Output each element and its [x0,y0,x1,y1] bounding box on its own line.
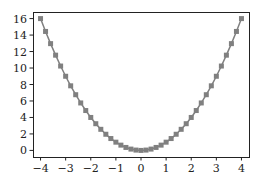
y-tick-label: 4 [20,111,27,124]
y-tick-label: 8 [20,79,27,92]
y-tick-label: 16 [13,13,27,26]
square-marker [164,140,169,145]
x-tick-label: −1 [108,162,124,175]
series-layer [38,16,244,153]
x-tick-label: 3 [213,162,220,175]
square-marker [214,74,219,79]
square-marker [169,136,174,141]
y-tick-label: 14 [13,29,27,42]
square-marker [133,148,138,153]
square-marker [199,100,204,105]
square-marker [194,108,199,113]
line-chart: −4−3−2−101234 0246810121416 [0,0,263,181]
square-marker [179,127,184,132]
square-marker [128,147,133,152]
square-marker [159,143,164,148]
square-marker [118,143,123,148]
square-marker [239,16,244,21]
square-marker [149,147,154,152]
square-marker [154,145,159,150]
square-marker [38,16,43,21]
square-marker [189,115,194,120]
y-tick-label: 12 [13,46,27,59]
square-marker [123,145,128,150]
square-marker [184,121,189,126]
square-marker [58,64,63,69]
square-marker [234,29,239,34]
y-axis-ticks: 0246810121416 [13,13,33,158]
y-tick-label: 6 [20,95,27,108]
square-marker [53,53,58,58]
square-marker [174,132,179,137]
square-marker [43,29,48,34]
x-tick-label: 2 [188,162,195,175]
square-marker [63,74,68,79]
x-tick-label: 0 [138,162,145,175]
x-tick-label: −3 [58,162,74,175]
square-marker [209,83,214,88]
square-marker [73,92,78,97]
square-marker [224,53,229,58]
square-marker [229,41,234,46]
square-marker [108,136,113,141]
axes-frame [34,13,250,158]
square-marker [139,148,144,153]
square-marker [78,100,83,105]
x-tick-label: 4 [238,162,245,175]
square-marker [219,64,224,69]
y-tick-label: 0 [20,144,27,157]
square-marker [83,108,88,113]
square-marker [98,127,103,132]
square-marker [48,41,53,46]
x-tick-label: 1 [163,162,170,175]
square-marker [93,121,98,126]
square-marker [103,132,108,137]
y-tick-label: 2 [20,128,27,141]
square-marker [204,92,209,97]
x-tick-label: −4 [32,162,48,175]
square-marker [68,83,73,88]
x-axis-ticks: −4−3−2−101234 [32,157,245,175]
square-marker [88,115,93,120]
square-marker [113,140,118,145]
y-tick-label: 10 [13,62,27,75]
x-tick-label: −2 [83,162,99,175]
square-marker [144,148,149,153]
